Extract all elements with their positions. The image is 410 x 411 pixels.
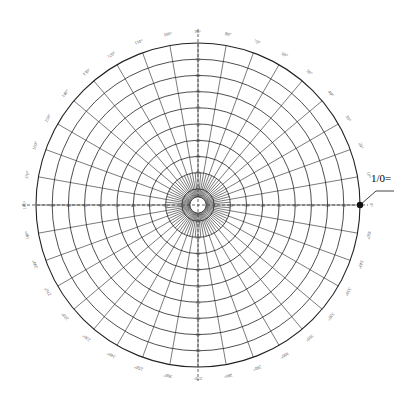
ring-label: 60 bbox=[99, 203, 104, 208]
angle-label: 300° bbox=[280, 351, 290, 360]
angle-label: 190° bbox=[24, 230, 30, 239]
spoke bbox=[205, 124, 338, 201]
angle-label: 40° bbox=[327, 89, 335, 97]
angle-label: 150° bbox=[43, 113, 52, 123]
angle-label: 90° bbox=[195, 29, 202, 34]
spoke bbox=[204, 210, 322, 309]
angle-label: 260° bbox=[163, 373, 172, 379]
spoke bbox=[74, 101, 192, 200]
spoke bbox=[94, 211, 193, 329]
ring-label: 40 bbox=[131, 203, 136, 208]
angle-label: 140° bbox=[60, 88, 69, 98]
ring-label: 60 bbox=[196, 105, 201, 110]
ring-label: 10 bbox=[196, 186, 201, 191]
ring-label: 80 bbox=[196, 73, 201, 78]
spoke bbox=[203, 81, 302, 199]
angle-label: 180° bbox=[22, 201, 27, 210]
angle-label: 20° bbox=[358, 142, 365, 150]
angle-label: 120° bbox=[106, 50, 116, 59]
ring-label: 50 bbox=[196, 122, 201, 127]
ring-label: 30 bbox=[196, 154, 201, 159]
angle-label: 50° bbox=[305, 68, 313, 76]
angle-label: 240° bbox=[106, 351, 116, 360]
spoke bbox=[203, 211, 302, 329]
ring-label: 40 bbox=[196, 267, 201, 272]
spoke bbox=[202, 212, 279, 345]
angle-label: 280° bbox=[223, 373, 232, 379]
angle-label: 160° bbox=[31, 141, 39, 151]
spoke bbox=[202, 65, 279, 198]
angle-label: 270° bbox=[194, 376, 203, 381]
angle-label: 350° bbox=[366, 230, 372, 239]
ring-label: 80 bbox=[66, 203, 71, 208]
angle-label: 340° bbox=[357, 259, 365, 269]
spoke bbox=[206, 177, 358, 204]
angle-label: 70° bbox=[254, 39, 262, 46]
angle-label: 210° bbox=[43, 287, 52, 297]
angle-label: 100° bbox=[163, 31, 172, 37]
ring-label: 10 bbox=[196, 219, 201, 224]
ring-label: 90 bbox=[196, 57, 201, 62]
angle-label: 170° bbox=[24, 170, 30, 179]
spoke bbox=[170, 213, 197, 365]
ring-label: 80 bbox=[196, 332, 201, 337]
angle-label: 80° bbox=[225, 31, 232, 37]
spoke bbox=[38, 206, 190, 233]
spoke bbox=[206, 206, 358, 233]
ring-label: 10 bbox=[180, 203, 185, 208]
angle-label: 130° bbox=[82, 67, 92, 76]
angle-label: 320° bbox=[326, 312, 335, 322]
angle-label: 310° bbox=[304, 333, 314, 342]
angle-label: 0° bbox=[369, 203, 374, 207]
ring-label: 90 bbox=[342, 203, 347, 208]
ring-label: 20 bbox=[228, 203, 233, 208]
angle-label: 330° bbox=[344, 287, 353, 297]
angle-label: 110° bbox=[134, 38, 144, 46]
angle-label: 30° bbox=[345, 114, 353, 122]
ring-label: 50 bbox=[115, 203, 120, 208]
angle-label: 220° bbox=[60, 311, 69, 321]
ring-label: 70 bbox=[196, 316, 201, 321]
ring-label: 30 bbox=[244, 203, 249, 208]
spoke bbox=[74, 210, 192, 309]
spoke bbox=[205, 209, 338, 286]
angle-label: 230° bbox=[81, 333, 91, 342]
ring-label: 20 bbox=[196, 170, 201, 175]
spoke bbox=[94, 81, 193, 199]
ring-label: 40 bbox=[196, 138, 201, 143]
spoke bbox=[199, 213, 226, 365]
ring-label: 70 bbox=[309, 203, 314, 208]
ring-label: 70 bbox=[82, 203, 87, 208]
angle-label: 60° bbox=[281, 51, 289, 59]
ring-label: 90 bbox=[196, 348, 201, 353]
spoke bbox=[38, 177, 190, 204]
spoke bbox=[170, 45, 197, 197]
ring-label: 30 bbox=[147, 203, 152, 208]
ring-label: 30 bbox=[196, 251, 201, 256]
ring-label: 70 bbox=[196, 89, 201, 94]
spoke bbox=[204, 101, 322, 200]
ring-label: 10 bbox=[212, 203, 217, 208]
ring-label: 40 bbox=[261, 203, 266, 208]
ring-label: 50 bbox=[277, 203, 282, 208]
angle-label: 200° bbox=[31, 259, 39, 269]
spoke bbox=[117, 65, 194, 198]
ring-label: 90 bbox=[50, 203, 55, 208]
angle-label: 290° bbox=[252, 364, 262, 372]
spoke bbox=[199, 45, 226, 197]
spoke bbox=[58, 209, 191, 286]
ring-label: 20 bbox=[196, 235, 201, 240]
ring-label: 80 bbox=[325, 203, 330, 208]
polar-grid-chart: 1010101020202020303030304040404050505050… bbox=[0, 0, 410, 411]
angle-label: 250° bbox=[134, 364, 144, 372]
ring-label: 60 bbox=[196, 300, 201, 305]
spoke bbox=[117, 212, 194, 345]
ring-label: 50 bbox=[196, 284, 201, 289]
ring-label: 60 bbox=[293, 203, 298, 208]
marker-annotation: 1/0= bbox=[371, 172, 391, 184]
ring-label: 20 bbox=[163, 203, 168, 208]
spoke bbox=[58, 124, 191, 201]
